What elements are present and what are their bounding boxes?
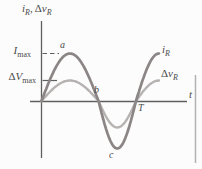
y-axis-label: iR,ΔvR xyxy=(22,3,52,14)
resistor-ac-waveform-figure: iR,ΔvR Imax ΔVmax a b c T t iR ΔvR xyxy=(0,0,202,169)
imax-label: Imax xyxy=(3,45,31,56)
period-T-label: T xyxy=(138,103,144,113)
current-curve-label: iR xyxy=(162,44,170,55)
point-a-label: a xyxy=(60,40,65,50)
x-axis-label: t xyxy=(189,89,192,100)
point-b-label: b xyxy=(94,85,99,95)
vmax-label: ΔVmax xyxy=(1,71,36,82)
voltage-curve-label: ΔvR xyxy=(161,68,178,79)
point-c-label: c xyxy=(109,150,113,160)
